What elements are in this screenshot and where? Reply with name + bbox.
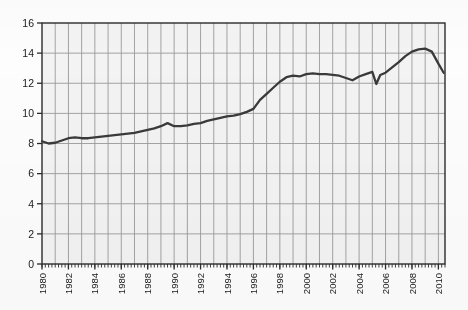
x-tick-label: 1988 [142, 273, 153, 294]
x-tick-label: 1994 [222, 273, 233, 294]
x-tick-label: 1990 [169, 273, 180, 294]
x-tick-label: 1998 [274, 273, 285, 294]
y-tick-label: 10 [22, 107, 34, 119]
y-axis-tick-labels: 0246810121416 [22, 17, 34, 270]
y-tick-label: 16 [22, 17, 34, 29]
x-tick-label: 2008 [407, 273, 418, 294]
y-axis-ticks [37, 23, 42, 264]
x-tick-label: 2010 [433, 273, 444, 294]
x-tick-label: 1980 [37, 273, 48, 294]
y-tick-label: 12 [22, 77, 34, 89]
y-tick-label: 0 [28, 258, 34, 270]
x-axis-tick-labels: 1980198219841986198819901992199419961998… [37, 273, 444, 294]
x-tick-label: 1986 [116, 273, 127, 294]
x-tick-label: 2000 [301, 273, 312, 294]
x-tick-label: 2004 [354, 273, 365, 294]
x-tick-label: 1984 [89, 273, 100, 294]
y-tick-label: 4 [28, 198, 34, 210]
x-tick-label: 1982 [63, 273, 74, 294]
x-tick-label: 1992 [195, 273, 206, 294]
y-tick-label: 8 [28, 137, 34, 149]
y-tick-label: 6 [28, 167, 34, 179]
x-tick-label: 2002 [327, 273, 338, 294]
line-chart: 0246810121416 19801982198419861988199019… [0, 0, 468, 310]
x-tick-label: 1996 [248, 273, 259, 294]
y-tick-label: 2 [28, 228, 34, 240]
chart-container: 0246810121416 19801982198419861988199019… [0, 0, 468, 310]
x-tick-label: 2006 [380, 273, 391, 294]
y-tick-label: 14 [22, 47, 34, 59]
